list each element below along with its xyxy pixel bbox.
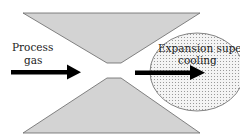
inlet-arrow-icon: [11, 65, 81, 80]
inlet-label-line2: gas: [24, 54, 42, 66]
inlet-label-line1: Process: [12, 41, 53, 53]
nozzle-diagram: Process gas Expansion super cooling: [0, 0, 240, 139]
outlet-label-line2: cooling: [178, 54, 217, 66]
outlet-label-line1: Expansion super: [158, 42, 240, 54]
